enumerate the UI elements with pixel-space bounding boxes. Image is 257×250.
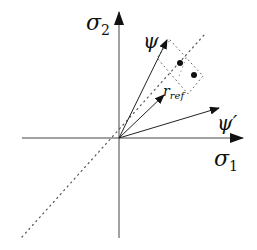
point-1 (177, 60, 183, 66)
x-axis-label: σ1 (214, 146, 238, 174)
psi-label: ψ (143, 29, 159, 53)
diagram-canvas: σ2 σ1 ψ rref ψ′ (0, 0, 257, 250)
y-axis-label: σ2 (86, 10, 110, 38)
point-2 (191, 72, 197, 78)
psi-prime-label: ψ′ (217, 111, 238, 135)
psi-vector (119, 40, 167, 138)
r-ref-label: rref (163, 83, 186, 101)
